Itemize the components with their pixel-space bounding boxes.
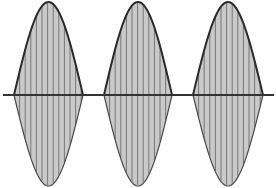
lobe-1 xyxy=(14,2,83,186)
lobe-2 xyxy=(104,2,172,186)
lobes-group xyxy=(14,2,263,186)
waveform-diagram xyxy=(0,0,276,188)
lobe-fill xyxy=(193,2,263,186)
lobe-fill xyxy=(14,2,83,186)
lobe-3 xyxy=(193,2,263,186)
